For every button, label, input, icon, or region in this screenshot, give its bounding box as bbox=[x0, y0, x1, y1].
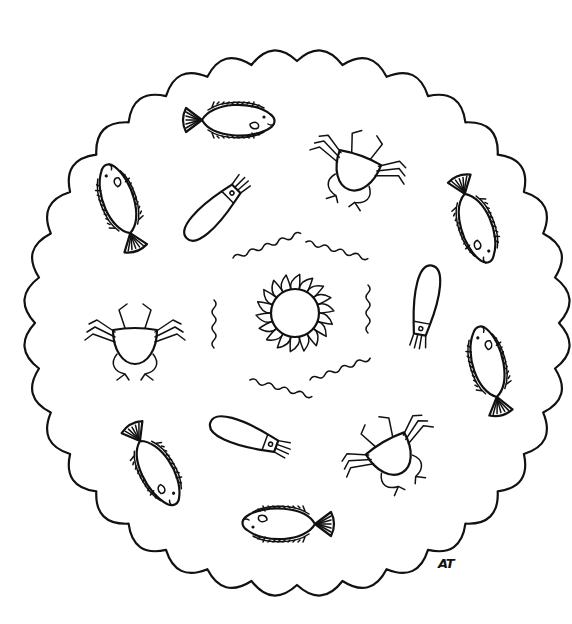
fish-icon bbox=[115, 416, 192, 513]
wave-line bbox=[366, 285, 370, 333]
wave-line bbox=[212, 300, 216, 348]
crab-icon bbox=[296, 116, 416, 222]
sea-creatures bbox=[85, 102, 519, 542]
fish-icon bbox=[461, 322, 519, 420]
wave-line bbox=[232, 231, 301, 259]
coloring-page-canvas bbox=[0, 0, 572, 624]
crab-icon bbox=[329, 396, 454, 512]
squid-icon bbox=[178, 171, 254, 247]
crab-icon bbox=[85, 304, 185, 380]
sun-icon bbox=[256, 274, 334, 351]
wave-line bbox=[305, 240, 368, 260]
squid-icon bbox=[206, 411, 293, 462]
fish-icon bbox=[89, 159, 154, 257]
artist-signature: AT bbox=[438, 556, 454, 571]
scalloped-circle-outline bbox=[24, 50, 569, 595]
fish-icon bbox=[441, 170, 506, 268]
wave-lines bbox=[212, 231, 371, 398]
fish-icon bbox=[243, 506, 335, 542]
squid-icon bbox=[406, 264, 444, 351]
scalloped-border bbox=[24, 50, 569, 595]
wave-line bbox=[249, 378, 312, 398]
wave-line bbox=[309, 356, 371, 382]
fish-icon bbox=[183, 102, 275, 138]
